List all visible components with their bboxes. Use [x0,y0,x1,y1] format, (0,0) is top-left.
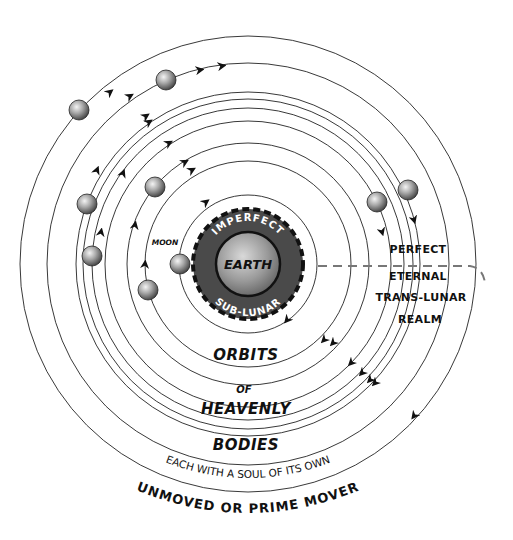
planet [367,192,387,212]
planet [156,70,176,90]
arrow-icon [119,173,123,183]
arrow-icon [183,170,192,175]
planet [145,177,165,197]
realm-label-trans-lunar: TRANS-LUNAR [375,291,466,304]
planet [398,180,418,200]
realm-label-perfect: PERFECT [390,243,447,256]
earth: EARTH IMPERFECT SUB-LUNAR [193,209,303,319]
moon-label: MOON [152,238,179,247]
arrow-icon [120,96,130,102]
prime-mover-label: UNMOVED OR PRIME MOVER [135,479,361,516]
arrow-icon [324,333,331,340]
arrow-icon [333,336,340,343]
arrow-icon [379,222,382,232]
arrow-icon [100,92,110,100]
moon [170,254,190,274]
planet [138,280,158,300]
realm-label-eternal: ETERNAL [389,270,447,283]
heavenly-label: HEAVENLY [201,400,291,418]
soul-label: EACH WITH A SOUL OF ITS OWN [165,453,332,480]
arrow-icon [93,170,97,180]
arrow-icon [137,116,146,122]
bodies-label: BODIES [213,436,279,454]
planet [82,246,102,266]
earth-label: EARTH [224,257,272,272]
arrow-icon [99,232,101,242]
of-label: OF [236,384,251,395]
orbits-label: ORBITS [213,346,278,364]
arrow-icon [198,202,206,208]
planet [77,194,97,214]
realm-label-realm: REALM [398,313,442,326]
planet [69,100,89,120]
